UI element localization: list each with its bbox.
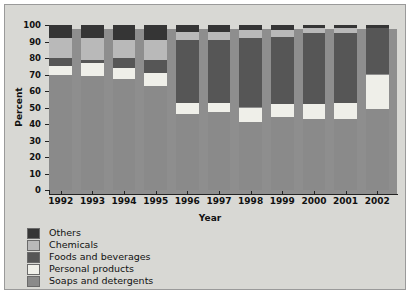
bar-segment-foods-and-beverages: [271, 37, 294, 105]
bar-segment-personal-products: [49, 66, 72, 74]
bar-2002: [366, 25, 389, 190]
bar-segment-foods-and-beverages: [208, 40, 231, 103]
legend-label: Others: [49, 227, 81, 239]
x-tick-label: 1994: [108, 196, 140, 206]
bar-segment-others: [334, 25, 357, 28]
y-tick-mark: [45, 91, 49, 92]
y-tick-label: 80: [13, 54, 41, 62]
bar-2000: [303, 25, 326, 190]
x-tick-mark: [156, 191, 157, 195]
bar-segment-chemicals: [239, 30, 262, 38]
bar-segment-chemicals: [49, 38, 72, 58]
bar-segment-soaps-and-detergents: [176, 114, 199, 190]
bar-segment-foods-and-beverages: [334, 33, 357, 102]
y-tick-mark: [45, 141, 49, 142]
bar-segment-personal-products: [239, 108, 262, 123]
y-tick-mark: [45, 75, 49, 76]
bar-segment-foods-and-beverages: [239, 38, 262, 107]
x-tick-mark: [61, 191, 62, 195]
x-tick-mark: [346, 191, 347, 195]
bar-1994: [113, 25, 136, 190]
bar-segment-soaps-and-detergents: [208, 112, 231, 190]
legend-swatch: [27, 252, 40, 263]
bar-1995: [144, 25, 167, 190]
bar-segment-chemicals: [113, 40, 136, 58]
bar-segment-soaps-and-detergents: [334, 119, 357, 190]
legend-swatch: [27, 240, 40, 251]
bar-segment-others: [81, 25, 104, 38]
y-tick-label: 100: [13, 21, 41, 29]
bar-segment-others: [144, 25, 167, 40]
bar-1998: [239, 25, 262, 190]
bar-segment-soaps-and-detergents: [49, 75, 72, 191]
bar-segment-chemicals: [303, 28, 326, 33]
y-tick-mark: [45, 42, 49, 43]
legend-swatch: [27, 276, 40, 287]
x-tick-mark: [282, 191, 283, 195]
bar-segment-personal-products: [271, 104, 294, 117]
bar-segment-soaps-and-detergents: [271, 117, 294, 190]
bar-1996: [176, 25, 199, 190]
y-tick-mark: [45, 190, 49, 191]
bar-segment-personal-products: [113, 68, 136, 80]
bar-1997: [208, 25, 231, 190]
bar-segment-others: [208, 25, 231, 32]
bar-segment-others: [176, 25, 199, 32]
x-tick-label: 2002: [361, 196, 393, 206]
bar-segment-personal-products: [81, 63, 104, 76]
x-tick-label: 2000: [298, 196, 330, 206]
legend-label: Soaps and detergents: [49, 275, 153, 287]
y-tick-mark: [45, 174, 49, 175]
bar-segment-foods-and-beverages: [81, 60, 104, 63]
y-tick-mark: [45, 25, 49, 26]
x-tick-mark: [124, 191, 125, 195]
bar-2001: [334, 25, 357, 190]
bar-segment-personal-products: [366, 75, 389, 110]
bar-segment-foods-and-beverages: [303, 33, 326, 104]
bar-segment-others: [49, 25, 72, 38]
x-tick-mark: [377, 191, 378, 195]
y-tick-label: 20: [13, 153, 41, 161]
x-tick-mark: [219, 191, 220, 195]
bar-segment-chemicals: [144, 40, 167, 60]
x-tick-mark: [314, 191, 315, 195]
y-tick-label: 0: [13, 186, 41, 194]
bar-segment-personal-products: [208, 103, 231, 113]
x-tick-label: 1993: [76, 196, 108, 206]
bar-segment-chemicals: [271, 30, 294, 37]
bar-segment-chemicals: [81, 38, 104, 59]
bar-segment-foods-and-beverages: [49, 58, 72, 66]
x-tick-mark: [187, 191, 188, 195]
legend-swatch: [27, 264, 40, 275]
bar-segment-personal-products: [334, 103, 357, 120]
chart-figure: 0102030405060708090100 Percent 199219931…: [0, 0, 410, 294]
y-tick-mark: [45, 157, 49, 158]
y-tick-mark: [45, 108, 49, 109]
bar-segment-soaps-and-detergents: [113, 79, 136, 190]
bar-segment-others: [239, 25, 262, 30]
x-axis-title: Year: [5, 213, 410, 223]
bar-segment-personal-products: [303, 104, 326, 119]
bar-segment-others: [303, 25, 326, 28]
y-tick-label: 90: [13, 38, 41, 46]
legend-label: Chemicals: [49, 239, 98, 251]
x-tick-label: 2001: [330, 196, 362, 206]
figure-frame: 0102030405060708090100 Percent 199219931…: [4, 4, 406, 290]
x-tick-mark: [92, 191, 93, 195]
x-tick-label: 1997: [203, 196, 235, 206]
bar-segment-chemicals: [176, 32, 199, 40]
legend-label: Foods and beverages: [49, 251, 151, 263]
bar-segment-soaps-and-detergents: [81, 76, 104, 190]
bar-segment-soaps-and-detergents: [366, 109, 389, 190]
bar-segment-personal-products: [144, 73, 167, 86]
x-tick-label: 1999: [266, 196, 298, 206]
bar-segment-chemicals: [334, 28, 357, 33]
x-tick-label: 1998: [235, 196, 267, 206]
legend-swatch: [27, 228, 40, 239]
y-axis-title: Percent: [14, 67, 24, 147]
bar-segment-others: [271, 25, 294, 30]
bar-segment-foods-and-beverages: [144, 60, 167, 73]
bar-segment-soaps-and-detergents: [303, 119, 326, 190]
x-tick-label: 1995: [140, 196, 172, 206]
bar-segment-soaps-and-detergents: [239, 122, 262, 190]
